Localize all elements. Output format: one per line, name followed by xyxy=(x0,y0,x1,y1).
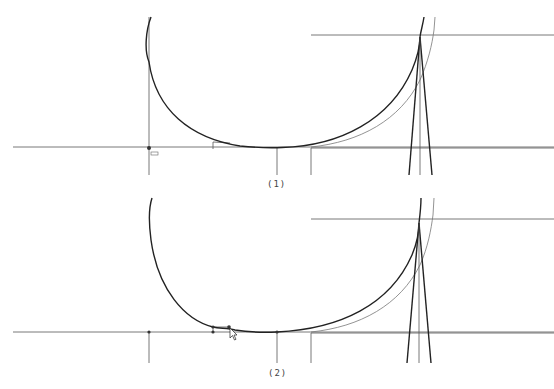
origin-marker-tag xyxy=(151,152,158,155)
triangle-right xyxy=(420,37,432,175)
origin-marker[interactable] xyxy=(147,146,151,150)
hull-curve xyxy=(146,17,424,148)
panel-1 xyxy=(0,0,554,195)
control-point[interactable] xyxy=(211,325,214,328)
control-point[interactable] xyxy=(275,330,278,333)
panel-1-caption: (1) xyxy=(267,179,286,189)
control-point[interactable] xyxy=(211,330,214,333)
panel-2-caption: (2) xyxy=(268,368,287,378)
panel-2 xyxy=(0,195,554,389)
triangle-left xyxy=(409,37,420,175)
triangle-left xyxy=(407,223,419,363)
control-point[interactable] xyxy=(147,330,150,333)
triangle-right xyxy=(419,223,431,363)
hull-curve xyxy=(149,198,421,332)
